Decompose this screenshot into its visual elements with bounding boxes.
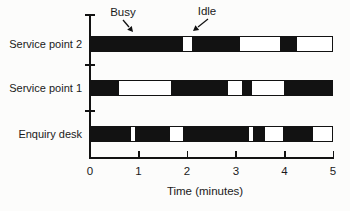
busy-segment bbox=[135, 127, 170, 141]
busy-segment bbox=[280, 37, 297, 51]
x-tick-label-0: 0 bbox=[87, 165, 93, 177]
x-tick-label-4: 4 bbox=[281, 165, 287, 177]
timeline-bar-service-point-2 bbox=[91, 36, 333, 52]
busy-segment bbox=[92, 37, 183, 51]
y-axis-tick bbox=[85, 14, 95, 16]
idle-annotation-label: Idle bbox=[191, 5, 223, 17]
row-label-service-point-1: Service point 1 bbox=[0, 82, 86, 95]
idle-arrow-icon bbox=[189, 17, 211, 33]
timeline-bar-service-point-1 bbox=[91, 80, 333, 96]
busy-annotation-label: Busy bbox=[103, 6, 143, 18]
x-axis-tick bbox=[89, 151, 91, 159]
busy-segment bbox=[183, 127, 249, 141]
x-tick-label-2: 2 bbox=[184, 165, 190, 177]
row-label-enquiry-desk: Enquiry desk bbox=[0, 128, 86, 141]
x-axis-tick bbox=[187, 151, 189, 159]
utilization-timeline-figure: Busy Idle Service point 2 Service point … bbox=[0, 0, 350, 211]
busy-segment bbox=[192, 37, 240, 51]
row-label-service-point-2: Service point 2 bbox=[0, 38, 86, 51]
y-axis-tick bbox=[85, 64, 95, 66]
x-axis-line bbox=[89, 157, 334, 159]
y-axis-tick bbox=[85, 110, 95, 112]
x-axis-tick bbox=[333, 151, 335, 159]
busy-segment bbox=[92, 81, 119, 95]
busy-segment bbox=[92, 127, 131, 141]
busy-segment bbox=[283, 127, 313, 141]
busy-segment bbox=[171, 81, 228, 95]
x-axis-tick bbox=[284, 151, 286, 159]
x-axis-tick bbox=[235, 151, 237, 159]
timeline-bar-enquiry-desk bbox=[91, 126, 333, 142]
busy-segment bbox=[253, 127, 265, 141]
x-tick-label-5: 5 bbox=[330, 165, 336, 177]
x-tick-label-3: 3 bbox=[233, 165, 239, 177]
x-axis-title: Time (minutes) bbox=[167, 185, 243, 197]
y-axis-line bbox=[89, 14, 91, 158]
busy-arrow-icon bbox=[118, 19, 136, 34]
x-tick-label-1: 1 bbox=[135, 165, 141, 177]
busy-segment bbox=[242, 81, 252, 95]
busy-segment bbox=[284, 81, 332, 95]
x-axis-tick bbox=[138, 151, 140, 159]
